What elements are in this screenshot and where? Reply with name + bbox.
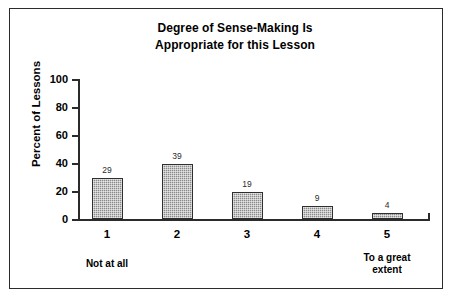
y-tick-100	[72, 79, 78, 81]
bar-value-label-1: 29	[87, 166, 127, 175]
y-tick-label-0: 0	[26, 214, 68, 225]
x-tick-label-5: 5	[362, 228, 412, 241]
y-axis-line	[78, 79, 80, 220]
chart-title-line-1: Degree of Sense-Making Is	[60, 20, 410, 37]
chart-figure: Degree of Sense-Making Is Appropriate fo…	[0, 0, 457, 306]
x-axis-end-tick	[428, 213, 430, 220]
y-tick-label-100: 100	[26, 74, 68, 85]
y-tick-label-20: 20	[26, 186, 68, 197]
y-tick-20	[72, 191, 78, 193]
chart-title: Degree of Sense-Making Is Appropriate fo…	[60, 20, 410, 54]
y-tick-label-80: 80	[26, 102, 68, 113]
scale-anchor-low: Not at all	[59, 258, 155, 270]
chart-title-line-2: Appropriate for this Lesson	[60, 37, 410, 54]
y-tick-60	[72, 135, 78, 137]
y-tick-label-60: 60	[26, 130, 68, 141]
bar-category-1[interactable]	[92, 178, 123, 219]
bar-category-4[interactable]	[302, 206, 333, 219]
y-tick-label-40: 40	[26, 158, 68, 169]
bar-category-3[interactable]	[232, 192, 263, 219]
x-tick-label-2: 2	[152, 228, 202, 241]
scale-anchor-high-line-1: To a great	[339, 252, 435, 264]
bar-value-label-3: 19	[227, 180, 267, 189]
x-tick-label-4: 4	[292, 228, 342, 241]
y-tick-80	[72, 107, 78, 109]
bar-category-2[interactable]	[162, 164, 193, 219]
bar-category-5[interactable]	[372, 213, 403, 219]
x-tick-label-1: 1	[82, 228, 132, 241]
x-axis-line	[78, 219, 430, 221]
bar-value-label-2: 39	[157, 152, 197, 161]
bar-value-label-4: 9	[297, 194, 337, 203]
scale-anchor-high-line-2: extent	[339, 264, 435, 276]
x-tick-label-3: 3	[222, 228, 272, 241]
y-tick-40	[72, 163, 78, 165]
bar-value-label-5: 4	[367, 201, 407, 210]
